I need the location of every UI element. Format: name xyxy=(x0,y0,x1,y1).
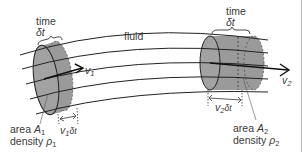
displacement-sub-1: 1 xyxy=(65,129,69,138)
displacement-sub-2: 2 xyxy=(220,106,224,115)
density-label-1: density ρ1 xyxy=(10,136,56,148)
density-sub-1: 1 xyxy=(52,140,56,149)
frame-border-right xyxy=(301,0,302,152)
density-word-1: density xyxy=(10,135,43,147)
area-symbol-1: A xyxy=(34,123,41,135)
velocity-label-2: v2 xyxy=(282,75,291,87)
time-brace-2 xyxy=(212,27,250,34)
displacement-label-1: v1δt xyxy=(60,125,77,137)
displacement-label-2: v2δt xyxy=(215,102,232,114)
displacement-tail-2: δt xyxy=(224,103,231,113)
fluid-label: fluid xyxy=(124,31,143,42)
velocity-sub-2: 2 xyxy=(287,79,291,88)
area-word-1: area xyxy=(10,123,31,135)
time-symbol-1: δt xyxy=(36,27,45,38)
area-symbol-2: A xyxy=(257,122,264,134)
fluid-flow-diagram: time δt v1 v1δt area A1 density ρ1 fluid… xyxy=(0,0,303,152)
area-word-2: area xyxy=(233,122,254,134)
cylinder-section-1 xyxy=(29,40,77,117)
time-symbol-2: δt xyxy=(226,17,235,28)
density-word-2: density xyxy=(233,134,266,146)
density-sub-2: 2 xyxy=(275,139,279,148)
velocity-label-1: v1 xyxy=(85,65,94,77)
displacement-tail-1: δt xyxy=(69,126,76,136)
density-label-2: density ρ2 xyxy=(233,135,279,147)
velocity-sub-1: 1 xyxy=(90,69,94,78)
